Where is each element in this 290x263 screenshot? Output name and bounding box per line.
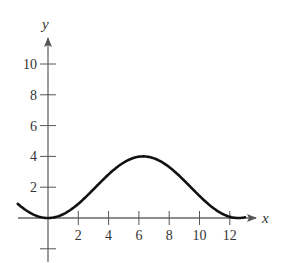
x-tick-label: 4 <box>105 228 112 243</box>
x-tick-label: 12 <box>223 228 237 243</box>
y-tick-label: 2 <box>30 180 37 195</box>
x-ticks: 24681012 <box>75 211 237 243</box>
x-tick-label: 2 <box>75 228 82 243</box>
y-tick-label: 10 <box>23 57 37 72</box>
y-tick-label: 8 <box>30 88 37 103</box>
chart: 24681012 246810 x y <box>0 0 290 263</box>
y-tick-label: 6 <box>30 119 37 134</box>
x-axis-label: x <box>261 210 269 226</box>
y-tick-label: 4 <box>30 149 37 164</box>
y-axis-label: y <box>40 16 49 32</box>
x-tick-label: 10 <box>193 228 207 243</box>
x-tick-label: 8 <box>166 228 173 243</box>
x-tick-label: 6 <box>135 228 142 243</box>
y-ticks: 246810 <box>23 57 56 249</box>
